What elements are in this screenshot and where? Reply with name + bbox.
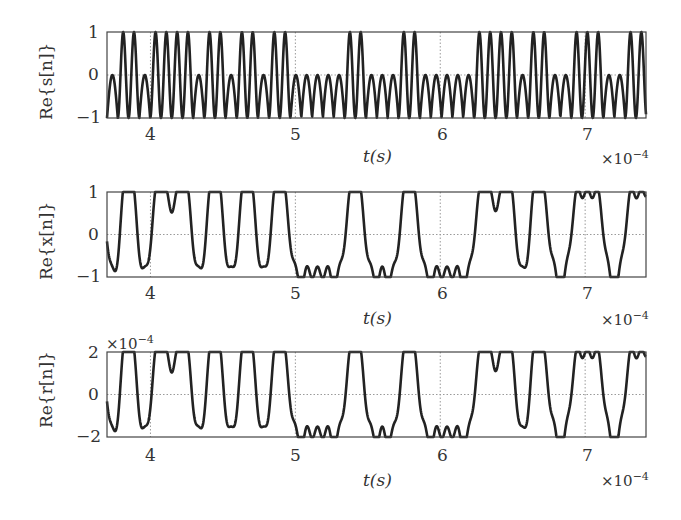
xtick-5: 5 bbox=[290, 445, 301, 465]
y-axis-label-r: Re{r[n]} bbox=[36, 351, 56, 428]
ytick-neg2: −2 bbox=[76, 426, 101, 446]
ytick-2: 2 bbox=[88, 342, 99, 362]
ytick-0: 0 bbox=[88, 384, 99, 404]
xtick-4: 4 bbox=[145, 445, 156, 465]
x-scale-factor-r: ×10−4 bbox=[601, 470, 649, 490]
xtick-6: 6 bbox=[437, 445, 448, 465]
xtick-7: 7 bbox=[582, 445, 593, 465]
plot-area-r bbox=[0, 0, 681, 520]
y-scale-factor-r: ×10−4 bbox=[106, 333, 154, 353]
x-axis-label-r: t(s) bbox=[363, 470, 392, 490]
